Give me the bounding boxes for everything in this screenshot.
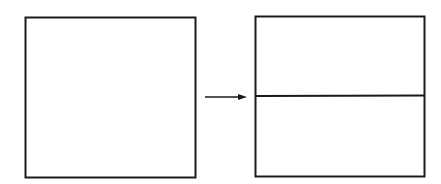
arrow-head-icon [238, 94, 247, 100]
divider-line [255, 96, 424, 97]
left-square [26, 18, 196, 178]
arrow [205, 94, 247, 100]
diagram-canvas [0, 0, 441, 184]
